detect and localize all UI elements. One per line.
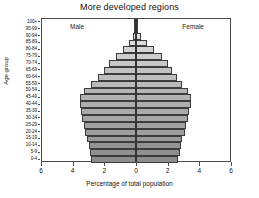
y-axis-tick xyxy=(38,138,41,139)
bar-male xyxy=(89,142,136,149)
y-axis-tick-label: 55-59 xyxy=(26,81,37,86)
y-axis-tick-label: 90-94 xyxy=(26,33,37,38)
y-axis-tick-label: 70-74 xyxy=(26,60,37,65)
bar-female xyxy=(136,149,180,156)
x-axis-tick-label: 6 xyxy=(39,167,43,174)
y-axis-tick xyxy=(38,49,41,50)
female-label: Female xyxy=(182,23,204,30)
y-axis-tick-label: 35-39 xyxy=(26,108,37,113)
bar-female xyxy=(136,142,181,149)
bar-male xyxy=(91,81,136,88)
bar-female xyxy=(136,108,189,115)
x-axis-tick xyxy=(231,162,232,166)
y-axis-tick xyxy=(38,90,41,91)
x-axis-tick-label: 4 xyxy=(71,167,75,174)
bar-female xyxy=(136,115,188,122)
y-axis-tick xyxy=(38,56,41,57)
y-axis-tick-label: 80-84 xyxy=(26,46,37,51)
bar-male xyxy=(80,94,136,101)
x-axis-tick xyxy=(104,162,105,166)
y-axis-tick-label: 60-64 xyxy=(26,74,37,79)
x-axis-tick-label: 2 xyxy=(103,167,107,174)
bar-female xyxy=(136,53,162,60)
y-axis-tick-label: 0-4 xyxy=(31,156,37,161)
bar-male xyxy=(84,88,136,95)
bar-female xyxy=(136,40,147,47)
bar-male xyxy=(116,53,136,60)
x-axis-tick-label: 2 xyxy=(166,167,170,174)
x-axis-tick-label: 4 xyxy=(198,167,202,174)
y-axis-tick xyxy=(38,42,41,43)
y-axis-tick xyxy=(38,35,41,36)
bar-female xyxy=(136,74,177,81)
bar-male xyxy=(82,115,136,122)
x-axis-tick xyxy=(199,162,200,166)
y-axis-tick xyxy=(38,152,41,153)
y-axis-tick-label: 85-89 xyxy=(26,39,37,44)
bar-male xyxy=(123,46,136,53)
chart-title: More developed regions xyxy=(0,2,259,12)
bar-male xyxy=(81,108,136,115)
y-axis-tick-label: 65-69 xyxy=(26,67,37,72)
y-axis-labels: 0-45-910-1415-1920-2425-2930-3435-3940-4… xyxy=(0,18,40,162)
bar-male xyxy=(84,122,136,129)
bar-female xyxy=(136,33,141,40)
y-axis-tick-label: 40-44 xyxy=(26,101,37,106)
y-axis-tick xyxy=(38,97,41,98)
population-pyramid-chart: More developed regions Age group 0-45-91… xyxy=(0,0,259,198)
y-axis-tick xyxy=(38,28,41,29)
bar-male xyxy=(80,101,136,108)
x-axis-tick xyxy=(41,162,42,166)
y-axis-tick-label: 50-54 xyxy=(26,87,37,92)
plot-area: Male Female xyxy=(41,18,231,162)
x-axis-tick xyxy=(73,162,74,166)
y-axis-tick-label: 30-34 xyxy=(26,115,37,120)
x-axis-labels: 6420246 xyxy=(41,167,231,177)
male-label: Male xyxy=(70,23,84,30)
bar-male xyxy=(109,60,136,67)
y-axis-tick xyxy=(38,63,41,64)
bar-male xyxy=(104,67,136,74)
x-axis-title: Percentage of total population xyxy=(0,180,259,187)
y-axis-tick xyxy=(38,83,41,84)
bar-female xyxy=(136,129,185,136)
y-axis-tick-label: 25-29 xyxy=(26,122,37,127)
bar-female xyxy=(136,136,182,143)
y-axis-tick xyxy=(38,159,41,160)
y-axis-tick-label: 15-19 xyxy=(26,135,37,140)
y-axis-tick xyxy=(38,131,41,132)
x-axis-tick xyxy=(168,162,169,166)
x-axis-tick-label: 0 xyxy=(134,167,138,174)
bar-female xyxy=(136,94,191,101)
y-axis-tick-label: 10-14 xyxy=(26,142,37,147)
y-axis-tick-label: 75-79 xyxy=(26,53,37,58)
y-axis-tick xyxy=(38,117,41,118)
bar-male xyxy=(85,129,136,136)
y-axis-tick xyxy=(38,69,41,70)
y-axis-tick xyxy=(38,21,41,22)
y-axis-tick xyxy=(38,111,41,112)
x-axis-tick-label: 6 xyxy=(229,167,233,174)
bar-male xyxy=(98,74,136,81)
y-axis-tick xyxy=(38,124,41,125)
bar-female xyxy=(136,67,172,74)
bar-female xyxy=(136,122,186,129)
y-axis-tick-label: 95-99 xyxy=(26,26,37,31)
bar-female xyxy=(136,81,182,88)
y-axis-tick xyxy=(38,76,41,77)
bar-female xyxy=(136,60,168,67)
y-axis-tick-label: 100+ xyxy=(27,19,37,24)
y-axis-tick-label: 20-24 xyxy=(26,129,37,134)
y-axis-tick xyxy=(38,145,41,146)
bar-male xyxy=(87,136,136,143)
y-axis-tick-label: 45-49 xyxy=(26,94,37,99)
bar-female xyxy=(136,88,188,95)
bar-female xyxy=(136,46,154,53)
x-axis-tick xyxy=(136,162,137,166)
y-axis-tick xyxy=(38,104,41,105)
y-axis-tick-label: 5-9 xyxy=(31,149,37,154)
bar-female xyxy=(136,101,191,108)
bar-male xyxy=(90,149,136,156)
center-axis-line xyxy=(136,19,137,161)
